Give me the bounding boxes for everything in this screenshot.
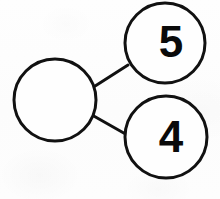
- connector-to-part-1: [92, 65, 128, 88]
- part-value-2: 4: [159, 112, 184, 161]
- part-value-1: 5: [159, 17, 183, 66]
- connector-to-part-2: [92, 115, 129, 136]
- whole-circle[interactable]: [14, 59, 96, 141]
- number-bond-diagram: 5 4: [0, 0, 220, 199]
- number-bond-figure: 5 4: [0, 0, 220, 199]
